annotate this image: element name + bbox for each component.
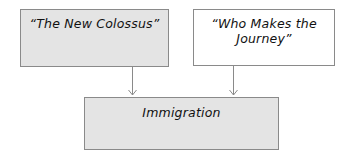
connectors bbox=[0, 0, 358, 159]
arrow-new-colossus-to-immigration bbox=[129, 67, 137, 95]
arrow-journey-to-immigration bbox=[230, 66, 238, 95]
